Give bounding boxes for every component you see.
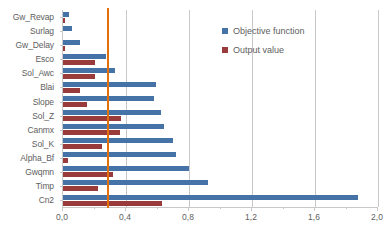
bar-output: [63, 186, 98, 191]
x-minor-tick: [220, 207, 221, 209]
bar-row: [63, 165, 377, 179]
category-tick: [60, 130, 63, 131]
legend-entry: Output value: [222, 45, 305, 55]
bar-row: [63, 123, 377, 137]
category-label: Esco: [0, 52, 58, 66]
x-tick-label: 1,6: [308, 212, 320, 222]
bar-output: [63, 18, 65, 23]
x-minor-tick: [283, 207, 284, 209]
bar-row: [63, 193, 377, 207]
category-label: Surlag: [0, 24, 58, 38]
category-label: Alpha_Bf: [0, 151, 58, 165]
bar-objective: [63, 166, 189, 171]
category-tick: [60, 17, 63, 18]
legend-swatch: [222, 47, 228, 53]
bar-output: [63, 88, 80, 93]
bar-row: [63, 10, 377, 24]
bar-row: [63, 38, 377, 52]
bar-objective: [63, 26, 72, 31]
category-axis-labels: Gw_RevapSurlagGw_DelayEscoSol_AwcBlaiSlo…: [0, 10, 58, 207]
bar-objective: [63, 152, 176, 157]
category-tick: [60, 144, 63, 145]
plot-area: [62, 10, 377, 207]
chart-legend: Objective functionOutput value: [222, 26, 305, 64]
category-tick: [60, 186, 63, 187]
category-label: Gw_Delay: [0, 38, 58, 52]
x-minor-tick: [94, 207, 95, 209]
bar-output: [63, 172, 113, 177]
bar-row: [63, 179, 377, 193]
bar-row: [63, 24, 377, 38]
category-label: Gw_Revap: [0, 10, 58, 24]
bar-objective: [63, 110, 161, 115]
x-tick-label: 2,0: [371, 212, 383, 222]
category-tick: [60, 31, 63, 32]
category-tick: [60, 158, 63, 159]
category-label: Slope: [0, 94, 58, 108]
x-major-tick: [314, 207, 315, 211]
gridline: [378, 10, 379, 207]
legend-label: Objective function: [233, 26, 305, 36]
bar-rows: [63, 10, 377, 207]
category-tick: [60, 87, 63, 88]
bar-chart: Gw_RevapSurlagGw_DelayEscoSol_AwcBlaiSlo…: [0, 0, 392, 238]
category-tick: [60, 172, 63, 173]
category-tick: [60, 45, 63, 46]
bar-row: [63, 94, 377, 108]
bar-output: [63, 102, 87, 107]
bar-output: [63, 144, 102, 149]
bar-row: [63, 151, 377, 165]
bar-output: [63, 158, 68, 163]
bar-output: [63, 60, 95, 65]
bar-objective: [63, 180, 208, 185]
category-tick: [60, 200, 63, 201]
legend-entry: Objective function: [222, 26, 305, 36]
legend-swatch: [222, 28, 228, 34]
category-label: Cn2: [0, 193, 58, 207]
bar-row: [63, 137, 377, 151]
category-tick: [60, 116, 63, 117]
bar-objective: [63, 138, 173, 143]
x-major-tick: [125, 207, 126, 211]
category-label: Sol_Awc: [0, 66, 58, 80]
bar-output: [63, 46, 65, 51]
category-tick: [60, 102, 63, 103]
category-label: Gwqmn: [0, 165, 58, 179]
x-major-tick: [251, 207, 252, 211]
bar-objective: [63, 12, 69, 17]
x-minor-tick: [157, 207, 158, 209]
bar-output: [63, 74, 95, 79]
category-label: Canmx: [0, 123, 58, 137]
bar-output: [63, 201, 162, 206]
category-label: Sol_Z: [0, 109, 58, 123]
category-tick: [60, 73, 63, 74]
x-major-tick: [188, 207, 189, 211]
bar-row: [63, 80, 377, 94]
x-major-tick: [377, 207, 378, 211]
legend-label: Output value: [233, 45, 284, 55]
bar-objective: [63, 124, 164, 129]
category-label: Timp: [0, 179, 58, 193]
bar-row: [63, 109, 377, 123]
x-tick-label: 1,2: [245, 212, 257, 222]
category-label: Sol_K: [0, 137, 58, 151]
x-tick-label: 0,4: [119, 212, 131, 222]
x-tick-label: 0,8: [182, 212, 194, 222]
bar-output: [63, 130, 120, 135]
reference-line: [107, 8, 109, 208]
bar-output: [63, 116, 121, 121]
bar-objective: [63, 82, 156, 87]
bar-objective: [63, 96, 154, 101]
bar-row: [63, 66, 377, 80]
bar-objective: [63, 54, 106, 59]
category-tick: [60, 59, 63, 60]
category-label: Blai: [0, 80, 58, 94]
x-minor-tick: [346, 207, 347, 209]
bar-objective: [63, 40, 80, 45]
x-tick-label: 0,0: [56, 212, 68, 222]
x-major-tick: [62, 207, 63, 211]
bar-row: [63, 52, 377, 66]
